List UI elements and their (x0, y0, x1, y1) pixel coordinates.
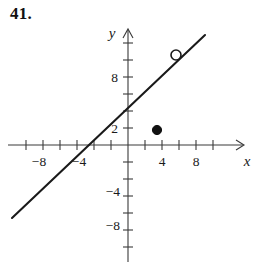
y-axis-label: y (107, 25, 116, 41)
y-tick-label: 8 (111, 70, 118, 85)
x-tick-label: −4 (72, 154, 87, 169)
open-circle-marker (171, 50, 181, 60)
x-tick-label: 8 (193, 154, 200, 169)
problem-number: 41. (10, 4, 32, 24)
x-tick-label: −8 (32, 154, 47, 169)
coordinate-graph: −8 −4 4 8 8 2 −4 −8 y x (0, 0, 258, 266)
closed-circle-marker (152, 125, 161, 134)
x-tick-label: 4 (159, 154, 166, 169)
y-tick-label: −8 (106, 218, 121, 233)
x-axis-label: x (243, 153, 251, 169)
y-tick-label: −4 (106, 184, 121, 199)
figure-container: 41. (0, 0, 258, 266)
x-axis (8, 140, 244, 150)
y-tick-label: 2 (111, 121, 118, 136)
